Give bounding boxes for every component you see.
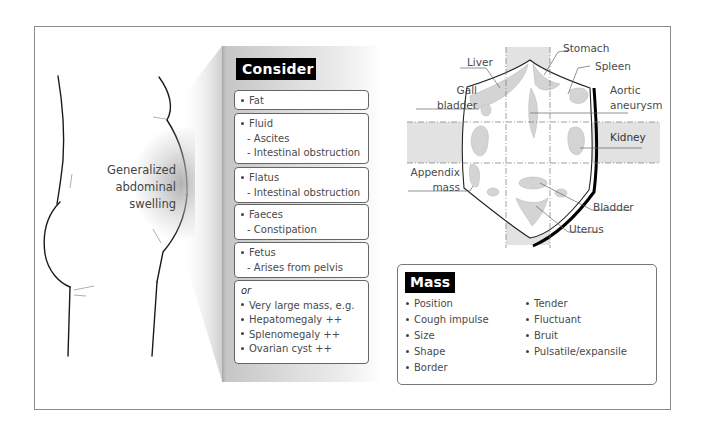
- item-text: Cough impulse: [414, 314, 489, 325]
- label-uterus: Uterus: [569, 224, 604, 235]
- list-item: Size: [406, 328, 489, 344]
- item-text: Bruit: [534, 330, 558, 341]
- label-line: Gall: [437, 83, 477, 98]
- label-gall-bladder: Gall bladder: [437, 83, 477, 113]
- bullet-icon: [406, 302, 409, 305]
- bullet-icon: [526, 302, 529, 305]
- bullet-icon: [526, 350, 529, 353]
- label-line: Appendix: [410, 165, 460, 180]
- bullet-icon: [406, 318, 409, 321]
- item-text: Size: [414, 330, 435, 341]
- bullet-icon: [406, 334, 409, 337]
- item-text: Pulsatile/expansile: [534, 346, 627, 357]
- bullet-icon: [526, 318, 529, 321]
- label-line: mass: [410, 180, 460, 195]
- mass-title: Mass: [405, 272, 455, 293]
- list-item: Tender: [526, 296, 627, 312]
- label-liver: Liver: [467, 57, 493, 68]
- mass-list-col2: Tender Fluctuant Bruit Pulsatile/expansi…: [526, 296, 627, 360]
- item-text: Border: [414, 362, 448, 373]
- list-item: Border: [406, 360, 489, 376]
- bullet-icon: [406, 350, 409, 353]
- list-item: Cough impulse: [406, 312, 489, 328]
- item-text: Shape: [414, 346, 445, 357]
- label-spleen: Spleen: [595, 61, 631, 72]
- label-stomach: Stomach: [563, 43, 609, 54]
- mass-list-col1: Position Cough impulse Size Shape Border: [406, 296, 489, 376]
- bullet-icon: [406, 366, 409, 369]
- bullet-icon: [526, 334, 529, 337]
- label-appendix-mass: Appendix mass: [410, 165, 460, 195]
- item-text: Fluctuant: [534, 314, 581, 325]
- list-item: Shape: [406, 344, 489, 360]
- item-text: Position: [414, 298, 453, 309]
- list-item: Fluctuant: [526, 312, 627, 328]
- list-item: Bruit: [526, 328, 627, 344]
- list-item: Pulsatile/expansile: [526, 344, 627, 360]
- label-line: bladder: [437, 98, 477, 113]
- label-aortic-aneurysm: Aortic aneurysm: [610, 83, 662, 113]
- label-kidney: Kidney: [610, 132, 646, 143]
- item-text: Tender: [534, 298, 568, 309]
- list-item: Position: [406, 296, 489, 312]
- label-line: Aortic: [610, 83, 662, 98]
- label-line: aneurysm: [610, 98, 662, 113]
- label-bladder: Bladder: [593, 202, 634, 213]
